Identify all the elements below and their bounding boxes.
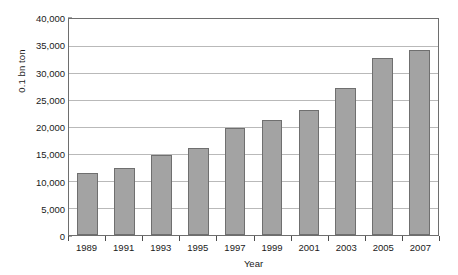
bar-slot bbox=[401, 19, 438, 235]
x-axis-tick-label: 1995 bbox=[179, 242, 216, 256]
plot-area bbox=[68, 18, 439, 236]
x-axis-tick-label: 1997 bbox=[216, 242, 253, 256]
x-axis-tick-mark bbox=[68, 236, 69, 241]
y-axis-tick-labels: 05,00010,00015,00020,00025,00030,00035,0… bbox=[20, 18, 68, 236]
x-axis-tick-labels: 1989199119931995199719992001200320052007 bbox=[68, 242, 439, 256]
bar[interactable] bbox=[114, 168, 135, 235]
x-axis-tick-marks bbox=[68, 236, 439, 241]
bar-slot bbox=[290, 19, 327, 235]
x-axis-tick-label: 2003 bbox=[328, 242, 365, 256]
bar-slot bbox=[180, 19, 217, 235]
bar[interactable] bbox=[188, 148, 209, 235]
y-axis-tick-label: 10,000 bbox=[36, 176, 65, 187]
x-axis-tick-mark bbox=[254, 236, 255, 241]
x-axis-tick-label: 2005 bbox=[365, 242, 402, 256]
bar[interactable] bbox=[77, 173, 98, 235]
bar-slot bbox=[69, 19, 106, 235]
bar-slot bbox=[254, 19, 291, 235]
x-axis-tick-mark bbox=[402, 236, 403, 241]
bar-slot bbox=[364, 19, 401, 235]
x-axis-tick-mark bbox=[439, 236, 440, 241]
x-axis-tick-mark bbox=[291, 236, 292, 241]
y-axis-tick-label: 15,000 bbox=[36, 149, 65, 160]
y-axis-tick-label: 25,000 bbox=[36, 94, 65, 105]
bar-slot bbox=[217, 19, 254, 235]
bar-chart: 0.1 bn ton 05,00010,00015,00020,00025,00… bbox=[0, 0, 458, 275]
x-axis-tick-mark bbox=[105, 236, 106, 241]
x-axis-tick-label: 1989 bbox=[68, 242, 105, 256]
bar[interactable] bbox=[409, 50, 430, 235]
y-axis-tick-label: 20,000 bbox=[36, 122, 65, 133]
x-axis-tick-mark bbox=[142, 236, 143, 241]
bar-slot bbox=[327, 19, 364, 235]
y-axis-tick-label: 0 bbox=[60, 231, 65, 242]
x-axis-tick-mark bbox=[328, 236, 329, 241]
x-axis-tick-label: 1991 bbox=[105, 242, 142, 256]
bar-slot bbox=[106, 19, 143, 235]
x-axis-tick-mark bbox=[216, 236, 217, 241]
x-axis-tick-mark bbox=[179, 236, 180, 241]
x-axis-tick-label: 1993 bbox=[142, 242, 179, 256]
y-axis-tick-label: 30,000 bbox=[36, 67, 65, 78]
x-axis-title: Year bbox=[68, 258, 439, 269]
x-axis-tick-label: 2001 bbox=[291, 242, 328, 256]
bar-slot bbox=[143, 19, 180, 235]
x-axis-tick-label: 2007 bbox=[402, 242, 439, 256]
x-axis-tick-label: 1999 bbox=[253, 242, 290, 256]
x-axis-tick-mark bbox=[365, 236, 366, 241]
bars-container bbox=[69, 19, 438, 235]
bar[interactable] bbox=[262, 120, 283, 235]
y-axis-tick-label: 40,000 bbox=[36, 13, 65, 24]
bar[interactable] bbox=[225, 128, 246, 235]
bar[interactable] bbox=[335, 88, 356, 235]
bar[interactable] bbox=[372, 58, 393, 235]
bar[interactable] bbox=[299, 110, 320, 235]
y-axis-tick-label: 5,000 bbox=[41, 203, 65, 214]
y-axis-tick-label: 35,000 bbox=[36, 40, 65, 51]
bar[interactable] bbox=[151, 155, 172, 235]
